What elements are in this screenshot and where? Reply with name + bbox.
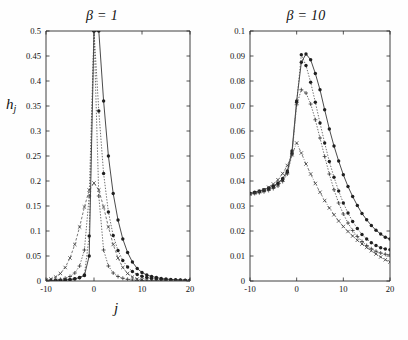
data-point-marker [332,213,335,216]
data-point-marker [92,181,95,184]
data-point-marker [88,234,91,237]
data-point-marker [276,178,279,181]
y-tick-label: 0.1 [30,226,41,236]
figure-container: β = 1 hj j 00.050.10.150.20.250.30.350.4… [0,0,408,340]
data-curve [46,31,190,281]
data-point-marker [314,101,317,104]
data-point-marker [304,162,307,165]
data-point-marker [318,88,321,91]
data-point-marker [328,160,331,163]
data-point-marker [88,254,91,257]
x-tick-label: 10 [339,284,348,294]
data-point-marker [356,227,359,230]
data-point-marker [337,159,340,162]
data-point-marker [351,220,354,223]
y-tick-label: 0.45 [26,51,41,61]
y-tick-label: 0.09 [230,51,245,61]
data-point-marker [332,188,336,192]
y-tick-label: 0.15 [26,201,41,211]
curves-layer [248,52,392,263]
data-point-marker [370,224,373,227]
data-point-marker [78,276,81,279]
data-point-marker [342,173,345,176]
data-point-marker [126,251,129,254]
data-curve [250,55,390,250]
data-point-marker [341,212,345,216]
y-tick-label: 0.04 [230,176,246,186]
data-point-marker [131,260,134,263]
y-tick-label: 0.02 [230,226,245,236]
data-point-marker [346,185,349,188]
data-point-marker [112,192,115,195]
data-point-marker [323,141,326,144]
data-point-marker [369,247,373,251]
data-point-marker [107,154,110,157]
data-point-marker [314,72,317,75]
data-point-marker [59,272,62,275]
data-point-marker [332,176,335,179]
data-point-marker [318,136,322,140]
data-point-marker [304,52,307,55]
data-point-marker [356,239,359,242]
data-point-marker [360,212,363,215]
data-curve [250,143,390,262]
data-point-marker [102,248,106,252]
data-point-marker [342,201,345,204]
data-point-marker [140,271,143,274]
y-tick-label: 0.05 [230,151,245,161]
y-tick-label: 0.5 [30,26,41,36]
y-tick-label: 0.05 [26,251,41,261]
data-curve [250,90,390,255]
data-point-marker [365,237,368,240]
data-point-marker [384,258,387,261]
data-point-marker [309,81,312,84]
data-point-marker [295,103,299,107]
plot-panel-beta-10: β = 10 hj j 00.010.020.030.040.050.060.0… [204,0,408,340]
data-point-marker [304,64,307,67]
x-tick-label: -10 [244,284,255,294]
data-point-marker [337,201,341,205]
data-point-marker [97,29,100,32]
y-tick-label: 0.03 [230,201,245,211]
data-point-marker [374,229,377,232]
data-point-marker [300,53,303,56]
data-point-marker [300,151,303,154]
x-tick-label: 20 [386,284,395,294]
data-point-marker [121,276,125,280]
data-point-marker [360,233,363,236]
data-point-marker [351,229,355,233]
y-tick-label: 0.06 [230,126,246,136]
data-point-marker [131,270,134,273]
data-point-marker [116,218,119,221]
data-curve [250,54,390,239]
data-point-marker [318,121,321,124]
data-point-marker [365,218,368,221]
data-point-marker [78,264,82,268]
data-point-marker [126,265,129,268]
data-point-marker [83,273,86,276]
data-point-marker [44,279,48,283]
y-tick-label: 0.25 [26,151,41,161]
data-point-marker [374,244,377,247]
data-point-marker [323,155,327,159]
data-point-marker [140,279,144,283]
x-tick-label: 0 [295,284,299,294]
data-point-marker [313,118,317,122]
data-point-marker [346,221,350,225]
data-point-marker [82,248,86,252]
data-point-marker [299,88,303,92]
data-point-marker [327,172,331,176]
data-point-marker [314,182,317,185]
data-point-marker [64,266,67,269]
data-point-marker [346,230,349,233]
data-curve [46,183,190,281]
data-point-marker [309,172,312,175]
data-point-marker [121,259,124,262]
y-tick-label: 0.07 [230,101,246,111]
data-point-marker [97,109,100,112]
data-point-marker [121,266,124,269]
data-point-marker [346,211,349,214]
plot-area-left: 00.050.10.150.20.250.30.350.40.450.5-100… [0,0,204,340]
y-tick-label: 0.35 [26,101,41,111]
data-point-marker [92,29,96,33]
